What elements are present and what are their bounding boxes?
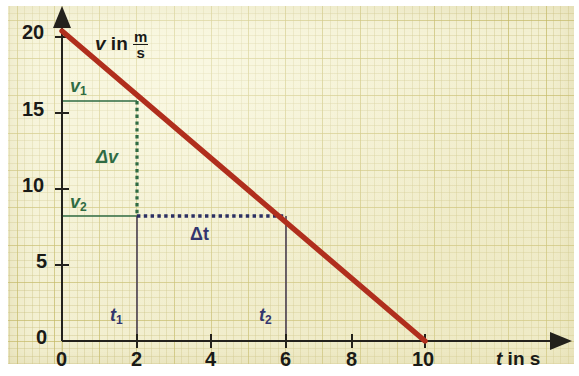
v2-symbol: v bbox=[70, 192, 80, 212]
delta-t-annotation-label: Δt bbox=[190, 224, 209, 245]
x-tick-label-0: 0 bbox=[56, 348, 67, 371]
axes bbox=[55, 26, 552, 348]
v1-annotation-label: v1 bbox=[70, 76, 87, 98]
t1-subscript: 1 bbox=[116, 313, 123, 327]
v2-annotation-label: v2 bbox=[70, 192, 87, 214]
y-tick-label-10: 10 bbox=[22, 174, 44, 197]
y-axis-label: v in ms bbox=[95, 29, 148, 60]
y-tick-label-15: 15 bbox=[22, 98, 44, 121]
v2-subscript: 2 bbox=[80, 200, 87, 214]
x-axis-label-rest: in s bbox=[502, 348, 540, 369]
t2-annotation-label: t2 bbox=[259, 305, 272, 327]
y-tick-label-0: 0 bbox=[36, 326, 47, 349]
velocity-data-line bbox=[62, 31, 425, 341]
t2-subscript: 2 bbox=[265, 313, 272, 327]
v1-symbol: v bbox=[70, 76, 80, 96]
x-tick-label-2: 2 bbox=[131, 348, 142, 371]
unit-denominator: s bbox=[133, 44, 148, 60]
v1-subscript: 1 bbox=[80, 84, 87, 98]
delta-v-annotation-label: Δv bbox=[96, 147, 118, 168]
y-tick-label-5: 5 bbox=[36, 250, 47, 273]
x-tick-label-8: 8 bbox=[346, 348, 357, 371]
unit-numerator: m bbox=[133, 29, 148, 44]
y-axis-label-rest: in bbox=[106, 33, 133, 54]
x-tick-label-4: 4 bbox=[205, 348, 216, 371]
y-axis-unit-fraction: ms bbox=[133, 29, 148, 60]
velocity-time-graph-figure: 20 15 10 5 0 0 2 4 6 8 10 v in ms t in s… bbox=[0, 0, 579, 376]
plot-canvas bbox=[0, 0, 579, 376]
x-axis-label: t in s bbox=[496, 348, 540, 370]
y-axis-label-symbol: v bbox=[95, 33, 106, 54]
x-tick-label-10: 10 bbox=[412, 348, 434, 371]
y-tick-label-20: 20 bbox=[22, 21, 44, 44]
t1-annotation-label: t1 bbox=[110, 305, 123, 327]
x-tick-label-6: 6 bbox=[280, 348, 291, 371]
